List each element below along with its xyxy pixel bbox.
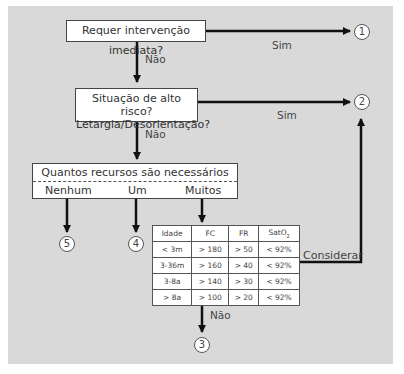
option-none: Nenhum xyxy=(45,182,92,199)
question-text: Quantos recursos são necessários xyxy=(33,164,237,182)
header-sato2: SatO2 xyxy=(259,226,300,242)
table-header-row: Idade FC FR SatO2 xyxy=(153,226,300,242)
question-immediate-intervention: Requer intervenção imediata? xyxy=(66,20,206,42)
cell: < 92% xyxy=(259,242,300,258)
no-label-q1: Não xyxy=(145,53,166,65)
cell: > 40 xyxy=(229,258,259,274)
cell: < 92% xyxy=(259,290,300,306)
table-row: 3-8a > 140 > 30 < 92% xyxy=(153,274,300,290)
cell: < 92% xyxy=(259,274,300,290)
outcome-circle-2: 2 xyxy=(354,94,370,110)
header-fr: FR xyxy=(229,226,259,242)
vital-signs-table: Idade FC FR SatO2 < 3m > 180 > 50 < 92% … xyxy=(152,225,300,306)
cell: < 3m xyxy=(153,242,192,258)
cell: > 140 xyxy=(192,274,229,290)
table-row: 3-36m > 160 > 40 < 92% xyxy=(153,258,300,274)
table-row: > 8a > 100 > 20 < 92% xyxy=(153,290,300,306)
cell: > 30 xyxy=(229,274,259,290)
cell: > 180 xyxy=(192,242,229,258)
no-label-table: Não xyxy=(210,309,231,321)
cell: > 20 xyxy=(229,290,259,306)
outcome-circle-4: 4 xyxy=(128,236,144,252)
consider-label: Considerar xyxy=(303,249,363,262)
outcome-circle-5: 5 xyxy=(59,236,75,252)
cell: > 8a xyxy=(153,290,192,306)
cell: 3-8a xyxy=(153,274,192,290)
cell: < 92% xyxy=(259,258,300,274)
question-high-risk: Situação de alto risco? Letargia/Desorie… xyxy=(75,88,198,122)
question-text-line2: Letargia/Desorientação? xyxy=(76,118,197,131)
table-row: < 3m > 180 > 50 < 92% xyxy=(153,242,300,258)
header-age: Idade xyxy=(153,226,192,242)
no-label-q2: Não xyxy=(145,128,166,140)
yes-label-q2: Sim xyxy=(277,109,297,121)
header-fc: FC xyxy=(192,226,229,242)
option-many: Muitos xyxy=(185,182,221,199)
cell: > 160 xyxy=(192,258,229,274)
option-one: Um xyxy=(128,182,147,199)
cell: > 100 xyxy=(192,290,229,306)
outcome-circle-3: 3 xyxy=(194,337,210,353)
cell: > 50 xyxy=(229,242,259,258)
question-text-line1: Situação de alto risco? xyxy=(76,92,197,118)
cell: 3-36m xyxy=(153,258,192,274)
outcome-circle-1: 1 xyxy=(354,24,370,40)
yes-label-q1: Sim xyxy=(272,39,292,51)
question-resources: Quantos recursos são necessários Nenhum … xyxy=(32,163,238,199)
